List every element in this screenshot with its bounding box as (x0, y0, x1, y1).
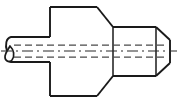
tip-chamfer-lower-slope (156, 63, 170, 76)
taper-upper-slope (97, 7, 113, 27)
taper-lower-slope (97, 76, 113, 96)
tip-chamfer-upper-slope (156, 27, 170, 40)
technical-drawing-canvas: Stepped shaft with flange and chamfered … (0, 0, 178, 108)
part-drawing-svg (0, 0, 178, 108)
